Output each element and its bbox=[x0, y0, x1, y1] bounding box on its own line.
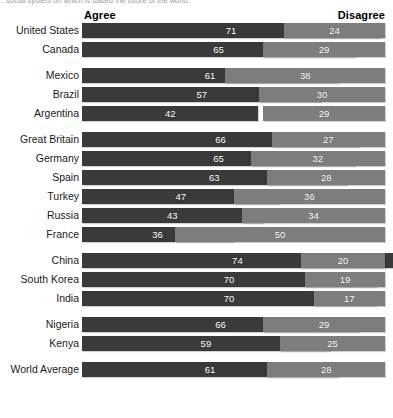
bar-disagree-value: 29 bbox=[263, 106, 385, 121]
row-label: France bbox=[0, 227, 79, 242]
row-label: Kenya bbox=[0, 336, 79, 351]
bar-disagree-value: 29 bbox=[263, 42, 385, 57]
chart-legend-header: Agree Disagree bbox=[0, 9, 390, 22]
chart-row: Turkey4736 bbox=[0, 189, 390, 204]
bar-disagree-value: 50 bbox=[175, 227, 385, 242]
chart-row: Germany6532 bbox=[0, 151, 390, 166]
chart-row: Great Britain6627 bbox=[0, 132, 390, 147]
chart-row: China7420 bbox=[0, 253, 390, 268]
chart-row: India7017 bbox=[0, 291, 390, 306]
chart-rows: United States7124Canada6529Mexico6138Bra… bbox=[0, 23, 390, 377]
bar-disagree: 17 bbox=[314, 291, 385, 306]
chart-row: France3650 bbox=[0, 227, 390, 242]
row-label: Canada bbox=[0, 42, 79, 57]
bar-disagree-value: 28 bbox=[267, 170, 385, 185]
bar-disagree: 19 bbox=[305, 272, 385, 287]
bar-disagree: 30 bbox=[259, 87, 385, 102]
chart-row: United States7124 bbox=[0, 23, 390, 38]
chart-row: Brazil5730 bbox=[0, 87, 390, 102]
chart-group-north-america: United States7124Canada6529 bbox=[0, 23, 390, 57]
chart-row: Spain6328 bbox=[0, 170, 390, 185]
chart-row: Russia4334 bbox=[0, 208, 390, 223]
row-label: Russia bbox=[0, 208, 79, 223]
bar-disagree-value: 24 bbox=[284, 23, 385, 38]
bar-disagree: 25 bbox=[280, 336, 385, 351]
row-label: Argentina bbox=[0, 106, 79, 121]
bar-disagree: 50 bbox=[175, 227, 385, 242]
bar-disagree-value: 30 bbox=[259, 87, 385, 102]
bar-disagree-value: 20 bbox=[301, 253, 385, 268]
chart-group-world-average: World Average6128 bbox=[0, 362, 390, 377]
bar-disagree: 20 bbox=[301, 253, 385, 268]
row-label: World Average bbox=[0, 362, 79, 377]
chart-row: Kenya5925 bbox=[0, 336, 390, 351]
bar-disagree: 36 bbox=[234, 189, 385, 204]
bar-disagree: 29 bbox=[263, 106, 385, 121]
bar-disagree: 29 bbox=[263, 317, 385, 332]
bar-agree: 43 bbox=[82, 208, 263, 223]
bar-disagree: 29 bbox=[263, 42, 385, 57]
row-label: Great Britain bbox=[0, 132, 79, 147]
bar-disagree: 32 bbox=[251, 151, 385, 166]
row-label: China bbox=[0, 253, 79, 268]
caption-fragment: ...social system on which is based the f… bbox=[0, 0, 260, 5]
bar-disagree: 34 bbox=[242, 208, 385, 223]
bar-disagree: 28 bbox=[267, 170, 385, 185]
chart-row: World Average6128 bbox=[0, 362, 390, 377]
bar-disagree: 24 bbox=[284, 23, 385, 38]
bar-disagree-value: 32 bbox=[251, 151, 385, 166]
row-label: Germany bbox=[0, 151, 79, 166]
bar-disagree-value: 34 bbox=[242, 208, 385, 223]
row-label: Brazil bbox=[0, 87, 79, 102]
legend-agree-label: Agree bbox=[84, 9, 116, 22]
chart-row: Argentina4229 bbox=[0, 106, 390, 121]
legend-disagree-label: Disagree bbox=[338, 9, 385, 22]
row-label: India bbox=[0, 291, 79, 306]
chart-row: Mexico6138 bbox=[0, 68, 390, 83]
bar-agree-value: 43 bbox=[82, 208, 263, 223]
bar-disagree-value: 25 bbox=[280, 336, 385, 351]
row-label: Mexico bbox=[0, 68, 79, 83]
bar-disagree: 28 bbox=[267, 362, 385, 377]
bar-disagree-value: 36 bbox=[234, 189, 385, 204]
bar-disagree: 38 bbox=[225, 68, 385, 83]
bar-disagree-value: 19 bbox=[305, 272, 385, 287]
row-label: Nigeria bbox=[0, 317, 79, 332]
bar-disagree-value: 29 bbox=[263, 317, 385, 332]
bar-disagree-value: 28 bbox=[267, 362, 385, 377]
bar-agree: 42 bbox=[82, 106, 258, 121]
row-label: Spain bbox=[0, 170, 79, 185]
row-label: Turkey bbox=[0, 189, 79, 204]
row-label: United States bbox=[0, 23, 79, 38]
bar-disagree-value: 27 bbox=[272, 132, 385, 147]
chart-group-latin-america: Mexico6138Brazil5730Argentina4229 bbox=[0, 68, 390, 121]
chart-row: Canada6529 bbox=[0, 42, 390, 57]
bar-disagree-value: 38 bbox=[225, 68, 385, 83]
row-label: South Korea bbox=[0, 272, 79, 287]
bar-disagree: 27 bbox=[272, 132, 385, 147]
chart-group-africa: Nigeria6629Kenya5925 bbox=[0, 317, 390, 351]
chart-row: Nigeria6629 bbox=[0, 317, 390, 332]
chart-row: South Korea7019 bbox=[0, 272, 390, 287]
chart-group-europe: Great Britain6627Germany6532Spain6328Tur… bbox=[0, 132, 390, 242]
bar-agree-value: 42 bbox=[82, 106, 258, 121]
bar-disagree-value: 17 bbox=[314, 291, 385, 306]
chart-group-asia: China7420South Korea7019India7017 bbox=[0, 253, 390, 306]
